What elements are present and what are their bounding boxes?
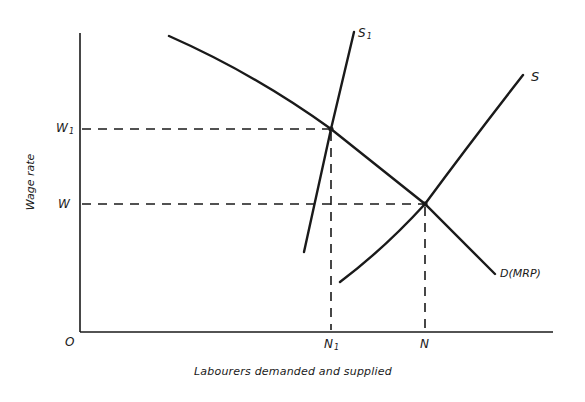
w1-tick-label: W1 xyxy=(56,122,74,136)
demand-curve-d-mrp xyxy=(169,36,495,274)
equilibrium-point-w1-n1 xyxy=(328,126,333,131)
w-tick-label: W xyxy=(58,198,70,210)
n-label-main: N xyxy=(420,337,429,351)
s1-label-main: S xyxy=(358,26,366,40)
s1-label-sub: 1 xyxy=(367,32,372,41)
equilibrium-point-w-n xyxy=(422,201,427,206)
d-label-main: D(MRP) xyxy=(500,267,541,280)
s1-curve-label: S1 xyxy=(358,27,372,41)
supply-curve-s xyxy=(340,75,523,282)
n1-label-main: N xyxy=(324,337,333,351)
d-mrp-curve-label: D(MRP) xyxy=(500,268,541,279)
w-label-main: W xyxy=(58,197,70,211)
w1-label-sub: 1 xyxy=(69,127,74,136)
n1-label-sub: 1 xyxy=(334,343,339,352)
w1-label-main: W xyxy=(56,121,68,135)
y-axis-title: Wage rate xyxy=(24,154,37,211)
origin-label: O xyxy=(65,336,74,348)
s-curve-label: S xyxy=(531,70,539,83)
x-axis-title: Labourers demanded and supplied xyxy=(194,365,392,378)
origin-label-text: O xyxy=(65,335,74,349)
s-label-main: S xyxy=(531,69,539,84)
labour-market-diagram xyxy=(0,0,585,402)
n-tick-label: N xyxy=(420,338,429,350)
n1-tick-label: N1 xyxy=(324,338,339,352)
